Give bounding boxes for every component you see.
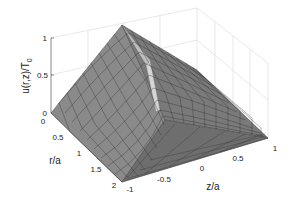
x-tick-neg1: -1 [126,185,134,194]
r-tick-1: 1 [77,149,82,158]
z-axis [51,38,54,113]
surface-plot: 1 0.5 0 0 0.5 1 1.5 2 -1 -0.5 0 0.5 1 r/… [0,0,289,200]
r-tick-0: 0 [41,117,46,126]
r-axis-label: r/a [49,155,61,166]
r-tick-0.5: 0.5 [52,133,64,142]
z-axis-label-main: u(r,z)/T [20,62,31,94]
x-tick-1: 1 [273,144,278,153]
x-tick-0.5: 0.5 [232,154,244,163]
r-tick-2: 2 [112,181,117,190]
z-tick-labels: 1 0.5 0 [37,34,49,118]
z-axis-label-subscript: 0 [26,58,33,62]
z-tick-0.5: 0.5 [37,71,49,80]
z-tick-1: 1 [43,34,48,43]
x-axis-label: z/a [206,181,220,192]
x-tick-0: 0 [200,164,205,173]
z-axis-label: u(r,z)/T0 [20,58,33,94]
x-tick-neg0.5: -0.5 [157,175,171,184]
r-tick-1.5: 1.5 [90,165,102,174]
svg-text:u(r,z)/T0: u(r,z)/T0 [20,58,33,94]
